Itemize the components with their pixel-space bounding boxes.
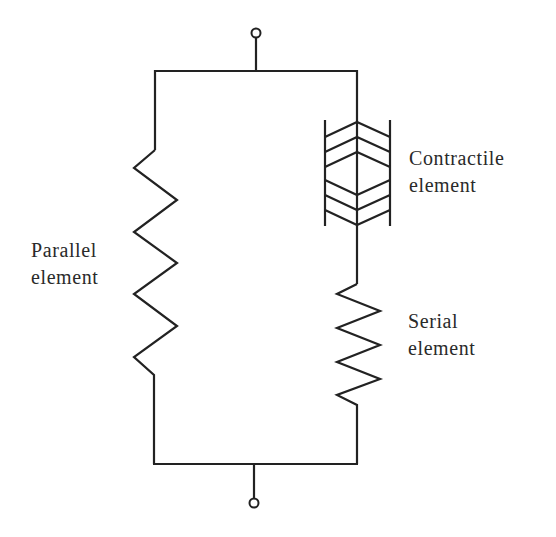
- parallel-element-label: Parallel element: [31, 237, 99, 291]
- parallel-element-spring: [134, 150, 177, 464]
- top-bus-wire: [155, 71, 357, 150]
- parallel-label-line1: Parallel: [31, 237, 99, 264]
- contractile-label-line1: Contractile: [409, 145, 504, 172]
- serial-element-spring: [337, 284, 380, 464]
- top-terminal: [252, 29, 261, 72]
- contractile-element-label: Contractile element: [409, 145, 504, 199]
- contractile-label-line2: element: [409, 172, 504, 199]
- serial-label-line2: element: [408, 335, 476, 362]
- serial-element-label: Serial element: [408, 308, 476, 362]
- contractile-element: [325, 120, 390, 284]
- parallel-label-line2: element: [31, 264, 99, 291]
- bottom-terminal: [250, 464, 259, 508]
- serial-label-line1: Serial: [408, 308, 476, 335]
